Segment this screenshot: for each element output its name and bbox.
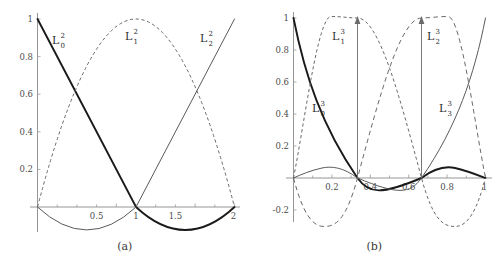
svg-text:1: 1 [134, 38, 138, 46]
curve-label-L3-cubed: L 3 3 [439, 100, 452, 118]
svg-text:3: 3 [435, 28, 439, 36]
figure-container: 0.5 1 1.5 2 0.2 0.4 0.6 0.8 1 L 0 2 [0, 0, 499, 266]
curve-L0-squared [38, 19, 235, 230]
y-tick-label-b-2: 0.6 [275, 77, 289, 87]
curve-L2-cubed [293, 17, 485, 227]
y-tick-label-a-4: 1 [28, 14, 33, 24]
svg-text:2: 2 [435, 38, 439, 46]
y-tick-label-b-3: 0.8 [275, 45, 289, 55]
panel-b-caption: (b) [250, 240, 499, 253]
y-tick-label-a-3: 0.8 [19, 52, 33, 62]
curve-label-L0-cubed: L 0 3 [312, 100, 325, 118]
chart-a-svg: 0.5 1 1.5 2 0.2 0.4 0.6 0.8 1 L 0 2 [0, 0, 249, 266]
x-tick-label-a-3: 2 [231, 211, 236, 221]
svg-text:0: 0 [61, 42, 65, 50]
curve-L1-cubed [293, 17, 485, 227]
curve-label-L2-cubed: L 2 3 [427, 28, 440, 46]
svg-text:L: L [52, 34, 60, 47]
svg-text:L: L [200, 32, 208, 45]
x-tick-label-b-0: 0.2 [325, 182, 339, 192]
svg-text:L: L [427, 30, 435, 43]
svg-text:2: 2 [61, 32, 65, 40]
curve-label-L1-cubed: L 1 3 [332, 28, 345, 46]
x-tick-label-a-0: 0.5 [90, 211, 104, 221]
svg-text:3: 3 [340, 28, 344, 36]
curve-label-L0-squared: L 0 2 [52, 32, 65, 50]
annotation-arrow-L1 [354, 16, 360, 178]
y-tick-label-a-0: 0.2 [19, 164, 33, 174]
y-tick-label-a-1: 0.4 [19, 127, 33, 137]
chart-a-x-ticks [57, 204, 234, 208]
curve-L2-squared [38, 19, 235, 230]
chart-b-svg: 0.2 0.4 0.6 0.8 1 -0.2 0.2 0.4 0.6 0.8 1 [250, 0, 499, 266]
svg-text:L: L [312, 102, 320, 115]
curve-label-L1-squared: L 1 2 [125, 28, 138, 46]
y-tick-label-b-4: 1 [283, 13, 288, 23]
svg-text:L: L [332, 30, 340, 43]
chart-b-x-ticks [312, 175, 485, 179]
y-tick-label-b-1: 0.4 [275, 109, 289, 119]
curve-label-L2-squared: L 2 2 [200, 30, 213, 48]
svg-text:L: L [125, 30, 133, 43]
svg-text:2: 2 [209, 40, 213, 48]
svg-text:2: 2 [209, 30, 213, 38]
svg-text:3: 3 [447, 110, 451, 118]
svg-text:2: 2 [134, 28, 138, 36]
y-tick-label-b-0: 0.2 [275, 141, 289, 151]
x-tick-label-a-2: 1.5 [169, 211, 183, 221]
annotation-arrow-L2 [418, 16, 424, 178]
panel-a: 0.5 1 1.5 2 0.2 0.4 0.6 0.8 1 L 0 2 [0, 0, 250, 266]
y-tick-label-b-neg02: -0.2 [272, 205, 288, 215]
svg-text:L: L [439, 102, 447, 115]
x-tick-label-b-3: 0.8 [440, 182, 454, 192]
curve-L1-squared [38, 19, 235, 207]
svg-text:3: 3 [447, 100, 451, 108]
y-tick-label-a-2: 0.6 [19, 89, 33, 99]
svg-text:1: 1 [340, 38, 344, 46]
chart-b-axes [286, 12, 492, 222]
panel-a-caption: (a) [0, 240, 250, 253]
svg-text:0: 0 [320, 110, 324, 118]
x-tick-label-a-1: 1 [133, 211, 138, 221]
panel-b: 0.2 0.4 0.6 0.8 1 -0.2 0.2 0.4 0.6 0.8 1 [250, 0, 499, 266]
svg-text:3: 3 [320, 100, 324, 108]
